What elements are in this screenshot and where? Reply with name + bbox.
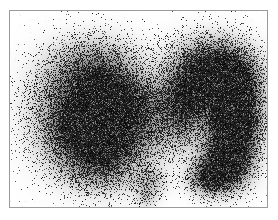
thyroid-scintigram-image xyxy=(10,11,267,207)
scan-viewer xyxy=(0,0,278,220)
scan-frame xyxy=(9,10,268,208)
